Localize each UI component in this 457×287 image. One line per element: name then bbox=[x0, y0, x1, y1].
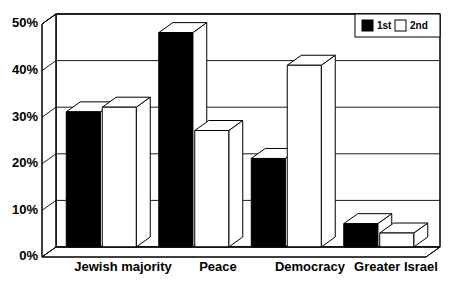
plot-floor bbox=[42, 247, 440, 257]
y-tick-label-50: 50% bbox=[12, 15, 38, 30]
y-tick-label-20: 20% bbox=[12, 155, 38, 170]
bar-front-face bbox=[195, 131, 229, 248]
bar-chart: 0% 10% 20% 30% 40% 50% Jewish majority P… bbox=[0, 0, 457, 287]
category-label-peace: Peace bbox=[199, 259, 237, 274]
category-label-jewish-majority: Jewish majority bbox=[74, 259, 172, 274]
legend-entry-1st[interactable]: 1st bbox=[362, 20, 392, 31]
bar-side-face bbox=[321, 55, 335, 247]
bar-democracy-2nd bbox=[287, 55, 335, 247]
bar-peace-2nd bbox=[195, 121, 243, 248]
bar-front-face bbox=[66, 112, 100, 247]
bar-side-face bbox=[136, 97, 150, 247]
bar-jewish-majority-2nd bbox=[102, 97, 150, 247]
legend: 1st 2nd bbox=[355, 14, 440, 37]
y-tick-label-40: 40% bbox=[12, 62, 38, 77]
legend-swatch-white-icon bbox=[395, 20, 406, 31]
y-tick-label-0: 0% bbox=[19, 248, 38, 263]
bar-front-face bbox=[344, 224, 378, 247]
bar-front-face bbox=[287, 65, 321, 247]
category-label-democracy: Democracy bbox=[275, 259, 346, 274]
y-tick-label-30: 30% bbox=[12, 109, 38, 124]
x-axis-category-labels: Jewish majority Peace Democracy Greater … bbox=[74, 259, 438, 274]
bar-front-face bbox=[380, 233, 414, 247]
bar-side-face bbox=[229, 121, 243, 248]
legend-entry-2nd[interactable]: 2nd bbox=[395, 20, 428, 31]
bar-front-face bbox=[251, 158, 285, 247]
bar-front-face bbox=[159, 33, 193, 247]
y-tick-label-10: 10% bbox=[12, 202, 38, 217]
category-label-greater-israel: Greater Israel bbox=[354, 259, 438, 274]
chart-canvas: 0% 10% 20% 30% 40% 50% Jewish majority P… bbox=[0, 0, 457, 287]
legend-label-2nd: 2nd bbox=[410, 20, 428, 31]
bar-front-face bbox=[102, 107, 136, 247]
y-axis-tick-labels: 0% 10% 20% 30% 40% 50% bbox=[12, 15, 38, 263]
legend-swatch-black-icon bbox=[362, 20, 373, 31]
legend-label-1st: 1st bbox=[377, 20, 392, 31]
axis-depth-wall bbox=[42, 14, 56, 257]
